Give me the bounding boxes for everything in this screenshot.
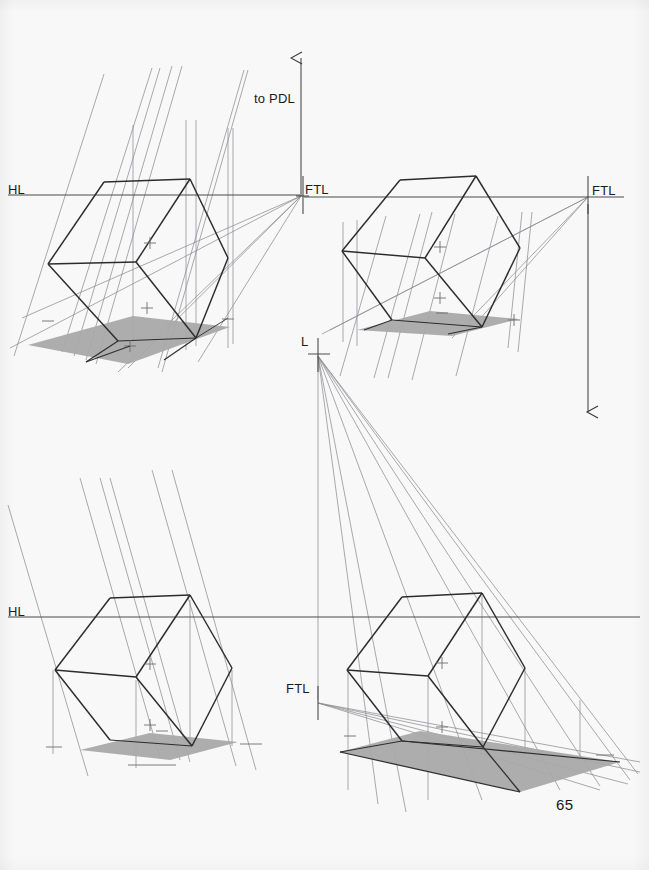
label-hl-top-left: HL [8,182,25,197]
cube-edges-bottom-right [347,593,525,747]
label-ftl-bottom-right: FTL [286,681,310,696]
perspective-construction-plate [0,0,649,870]
figure-bottom-left [8,470,300,776]
construction-rays-bottom-left [8,470,256,776]
cube-edges-bottom-left [55,595,232,746]
page-number: 65 [556,796,574,813]
label-light-point-L: L [301,334,308,349]
figure-top-right [303,176,624,412]
label-hl-bottom-left: HL [8,604,25,619]
label-ftl-top-right: FTL [592,183,616,198]
figure-bottom-right [300,338,640,812]
page-canvas: HL FTL to PDL FTL FTL L HL FTL 65 [0,0,649,870]
cast-shadow-bottom-left [80,733,238,760]
label-to-pdl: to PDL [254,91,295,106]
cast-shadow-top-left [28,316,230,364]
cube-edges-top-right [342,176,520,327]
construction-rays-top-right [340,212,532,380]
